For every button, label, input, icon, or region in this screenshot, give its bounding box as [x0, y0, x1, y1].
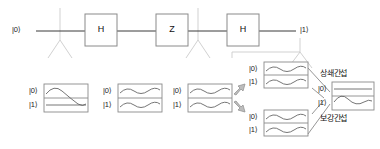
branch-fork-1a: [48, 40, 60, 58]
diagram-canvas: |0⟩ |1⟩ H Z H |0⟩ |1⟩ |0⟩ |1⟩ |0⟩ |1⟩ |0…: [0, 0, 380, 149]
annotation-destructive-interference: 상쇄간섭: [320, 70, 347, 78]
state-ket-g5r1: |0⟩: [249, 113, 257, 121]
state-ket-g3r1: |0⟩: [173, 87, 181, 95]
state-box-group-3: [188, 84, 232, 112]
branch-fork-2b: [198, 40, 210, 58]
transition-arrows: [234, 84, 245, 112]
state-box-group-5: [264, 110, 308, 136]
circuit-input-label: |0⟩: [12, 26, 20, 34]
gate-label-z: Z: [156, 25, 188, 34]
state-ket-result-r2: |1⟩: [318, 99, 326, 107]
arrow-up-right-icon: [234, 84, 245, 95]
state-box-group-4: [264, 62, 308, 88]
circuit-output-label: |1⟩: [300, 26, 308, 34]
state-ket-g1r1: |0⟩: [29, 87, 37, 95]
annotation-constructive-interference: 보강간섭: [320, 115, 347, 123]
state-ket-g4r1: |0⟩: [249, 65, 257, 73]
state-ket-g4r2: |1⟩: [249, 78, 257, 86]
state-ket-g2r1: |0⟩: [103, 87, 111, 95]
state-ket-g5r2: |1⟩: [249, 126, 257, 134]
state-ket-g3r2: |1⟩: [173, 101, 181, 109]
state-ket-result-r1: |0⟩: [318, 85, 326, 93]
gate-label-h2: H: [227, 25, 259, 34]
arrow-down-right-icon: [234, 101, 245, 112]
gate-label-h1: H: [85, 25, 117, 34]
state-box-group-2: [118, 84, 162, 112]
state-ket-g2r2: |1⟩: [103, 101, 111, 109]
state-box-group-result: [332, 82, 374, 110]
state-ket-g1r2: |1⟩: [29, 101, 37, 109]
branch-fork-1b: [60, 40, 72, 58]
state-box-group-1: [44, 84, 88, 112]
